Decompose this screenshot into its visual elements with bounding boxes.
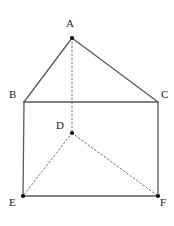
geometry-canvas [0, 0, 174, 226]
vertex-label-d: D [56, 120, 64, 131]
vertex-label-a: A [66, 18, 74, 29]
vertex-dot-d [70, 131, 74, 135]
dashed-edge-group [23, 38, 158, 196]
vertex-label-b: B [9, 89, 16, 100]
solid-edge-group [23, 38, 158, 196]
edge-BE [23, 102, 24, 196]
vertex-dot-e [21, 194, 25, 198]
vertex-label-f: F [160, 197, 166, 208]
vertex-label-c: C [161, 89, 168, 100]
edge-DF [72, 133, 158, 196]
geometry-figure: ABCDEF [0, 0, 174, 226]
edge-DE [23, 133, 72, 196]
vertex-dot-a [70, 36, 74, 40]
edge-AC [72, 38, 158, 102]
vertex-label-e: E [9, 197, 16, 208]
vertex-dot-group [21, 36, 160, 198]
edge-AB [24, 38, 72, 102]
